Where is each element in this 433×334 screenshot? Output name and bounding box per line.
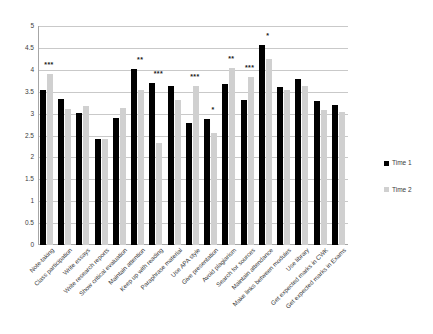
bar-group	[93, 26, 111, 245]
significance-marker: ***	[190, 73, 199, 80]
significance-marker: *	[266, 32, 269, 39]
bar-time-1	[295, 79, 301, 245]
y-axis: 00.511.522.533.544.55	[0, 26, 34, 245]
bar-time-1	[332, 105, 338, 245]
bar-time-1	[131, 69, 137, 245]
bar-time-2	[193, 86, 199, 245]
bar-group	[147, 26, 165, 245]
bar-time-2	[339, 112, 345, 245]
y-axis-tick-label: 2.5	[25, 132, 34, 139]
chart-legend: Time 1Time 2	[384, 160, 432, 213]
bar-group	[111, 26, 129, 245]
significance-marker: ***	[154, 70, 163, 77]
significance-marker: **	[228, 55, 234, 62]
bar-time-1	[259, 45, 265, 245]
bar-time-1	[168, 86, 174, 245]
bar-time-2	[47, 74, 53, 245]
legend-item[interactable]: Time 1	[384, 160, 432, 167]
bar-time-1	[58, 99, 64, 245]
bar-time-1	[95, 139, 101, 245]
legend-label: Time 2	[392, 187, 412, 194]
bar-time-1	[204, 119, 210, 245]
y-axis-tick-label: 4.5	[25, 45, 34, 52]
y-axis-tick-label: 1	[30, 198, 34, 205]
bar-time-1	[76, 113, 82, 245]
bar-group	[74, 26, 92, 245]
bar-group	[239, 26, 257, 245]
bar-time-1	[222, 84, 228, 245]
bar-time-2	[284, 90, 290, 245]
bar-time-2	[248, 77, 254, 245]
bar-group	[202, 26, 220, 245]
y-axis-tick-label: 5	[30, 23, 34, 30]
bar-group	[257, 26, 275, 245]
bar-time-1	[314, 101, 320, 245]
bar-group	[312, 26, 330, 245]
x-axis: Note-takingClass participationWrite essa…	[38, 247, 348, 332]
bar-time-2	[156, 143, 162, 245]
bar-time-2	[302, 86, 308, 245]
significance-marker: ***	[245, 64, 254, 71]
significance-marker: *	[212, 106, 215, 113]
bar-time-1	[241, 100, 247, 245]
bar-group	[275, 26, 293, 245]
y-axis-tick-label: 4	[30, 67, 34, 74]
y-axis-tick-label: 1.5	[25, 176, 34, 183]
bar-time-1	[113, 118, 119, 245]
bar-time-2	[138, 90, 144, 245]
bar-time-1	[186, 123, 192, 245]
bar-time-2	[65, 109, 71, 245]
legend-swatch-icon	[384, 161, 389, 166]
significance-marker: **	[137, 56, 143, 63]
legend-label: Time 1	[392, 160, 412, 167]
bar-time-1	[40, 90, 46, 245]
y-axis-tick-label: 3.5	[25, 88, 34, 95]
bar-time-2	[321, 110, 327, 245]
y-axis-tick-label: 0	[30, 242, 34, 249]
y-axis-tick-label: 0.5	[25, 220, 34, 227]
legend-swatch-icon	[384, 187, 389, 192]
bar-group	[184, 26, 202, 245]
bar-group	[166, 26, 184, 245]
significance-marker: ***	[44, 61, 53, 68]
bar-group	[38, 26, 56, 245]
bars-layer: ******************	[38, 26, 348, 245]
bar-time-2	[211, 133, 217, 245]
bar-time-2	[83, 106, 89, 245]
chart-page: 00.511.522.533.544.55 ******************…	[0, 0, 433, 334]
y-axis-tick-label: 2	[30, 154, 34, 161]
y-axis-tick-label: 3	[30, 110, 34, 117]
bar-time-2	[229, 68, 235, 245]
bar-time-2	[120, 108, 126, 245]
bar-group	[293, 26, 311, 245]
bar-time-1	[277, 87, 283, 245]
legend-item[interactable]: Time 2	[384, 187, 432, 194]
bar-time-2	[266, 59, 272, 245]
bar-group	[56, 26, 74, 245]
bar-time-1	[149, 83, 155, 245]
bar-time-2	[102, 139, 108, 245]
bar-time-2	[175, 100, 181, 245]
bar-group	[330, 26, 348, 245]
